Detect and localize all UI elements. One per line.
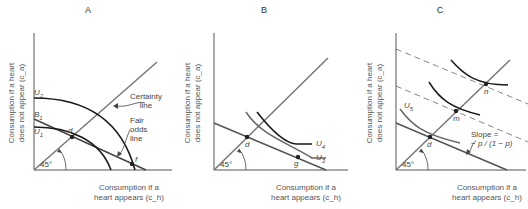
- dashed-budget-line-high: [396, 49, 528, 104]
- panel-b: B U4 U3 d g 45° Consumption if a heartdo…: [176, 0, 352, 209]
- label-fair-odds-line: Fairoddsline: [130, 116, 147, 143]
- point-m: [454, 109, 458, 113]
- x-axis-label: Consumption if aheart appears (c_h): [452, 183, 522, 203]
- y-axis-label: Consumption if a heartdoes not appear (c…: [360, 35, 390, 170]
- panel-c: C U5 d m n Slope =− p / (1 − p) 45° Cons…: [352, 0, 528, 209]
- label-d: d: [68, 126, 72, 135]
- label-u1: U1: [34, 127, 43, 140]
- label-d: d: [245, 140, 249, 149]
- label-u4: U4: [316, 139, 325, 152]
- x-axis-label: Consumption if aheart appears (c_h): [271, 183, 341, 203]
- label-n: n: [484, 87, 488, 96]
- point-d: [245, 135, 249, 139]
- point-n: [484, 82, 488, 86]
- label-b1: B1: [34, 110, 43, 123]
- panel-a: A U2 B1 U1 d f Certaintyline Fairoddslin…: [0, 0, 176, 209]
- label-m: m: [453, 114, 460, 123]
- indifference-curve-u4: [257, 112, 312, 144]
- label-certainty-line: Certaintyline: [130, 92, 162, 110]
- angle-label: 45°: [220, 160, 232, 169]
- label-u3: U3: [316, 153, 325, 166]
- x-axis-label: Consumption if aheart appears (c_h): [94, 183, 164, 203]
- indifference-curve-u3: [246, 112, 326, 158]
- point-d: [70, 135, 74, 139]
- point-f: [130, 162, 134, 166]
- point-d: [428, 135, 432, 139]
- angle-label: 45°: [40, 160, 52, 169]
- label-f: f: [135, 155, 137, 164]
- label-g: g: [294, 159, 298, 168]
- slope-label: Slope =− p / (1 − p): [471, 130, 512, 148]
- label-u2: U2: [34, 88, 43, 101]
- y-axis-label: Consumption if a heartdoes not appear (c…: [2, 35, 32, 170]
- y-axis-label: Consumption if a heartdoes not appear (c…: [178, 35, 208, 170]
- certainty-line: [214, 58, 328, 170]
- label-d: d: [427, 140, 431, 149]
- label-u5: U5: [404, 101, 413, 114]
- angle-label: 45°: [402, 160, 414, 169]
- indifference-curve-n: [451, 60, 508, 85]
- arrow-icon: [113, 103, 118, 109]
